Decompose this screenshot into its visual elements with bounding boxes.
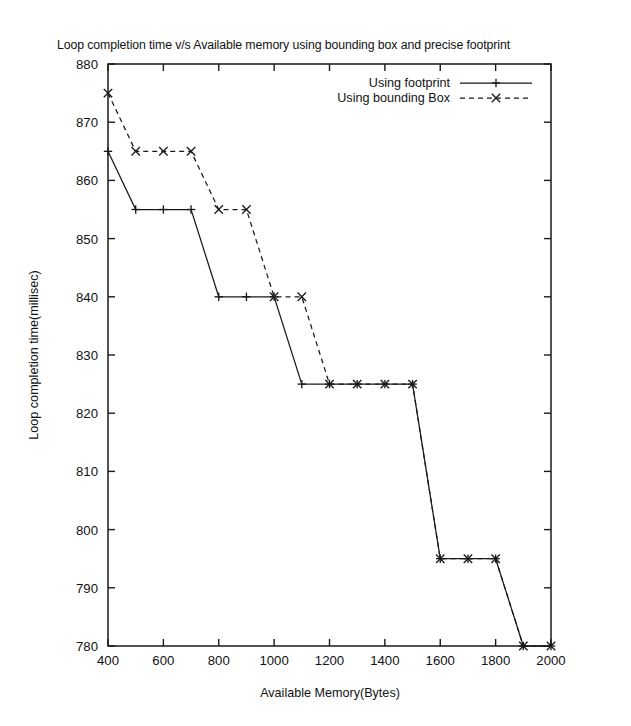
legend-label: Using footprint [369,76,451,90]
x-tick-label: 1400 [370,653,399,668]
chart-legend: Using footprintUsing bounding Box [337,76,532,105]
y-axis-title: Loop completion time(millisec) [27,270,41,439]
series-dashed [104,89,555,650]
x-tick-label: 400 [97,653,119,668]
y-tick-label: 850 [76,232,98,247]
x-tick-label: 2000 [536,653,565,668]
x-tick-label: 600 [152,653,174,668]
x-tick-label: 1800 [481,653,510,668]
y-tick-label: 820 [76,406,98,421]
chart-page: Loop completion time v/s Available memor… [0,0,631,726]
y-tick-label: 790 [76,581,98,596]
y-tick-label: 810 [76,464,98,479]
chart-plot: 400600800100012001400160018002000 780790… [0,0,631,726]
y-tick-label: 860 [76,173,98,188]
x-axis-tick-labels: 400600800100012001400160018002000 [97,653,566,668]
y-tick-label: 800 [76,523,98,538]
y-tick-label: 830 [76,348,98,363]
y-tick-label: 880 [76,57,98,72]
y-axis-tick-labels: 780790800810820830840850860870880 [76,57,98,654]
x-tick-label: 1600 [426,653,455,668]
x-tick-label: 1000 [259,653,288,668]
series-path [108,93,551,646]
y-tick-label: 870 [76,115,98,130]
x-tick-label: 1200 [315,653,344,668]
legend-label: Using bounding Box [337,91,450,105]
y-tick-label: 780 [76,639,98,654]
series-layer [104,89,555,650]
series-solid [104,147,555,650]
x-tick-label: 800 [208,653,230,668]
series-path [108,151,551,646]
y-tick-label: 840 [76,290,98,305]
x-axis-title: Available Memory(Bytes) [260,686,400,700]
